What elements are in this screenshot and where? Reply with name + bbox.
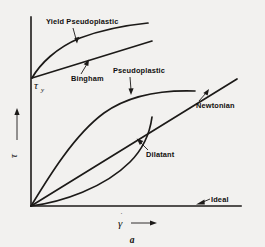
arrow-ideal (196, 200, 205, 205)
label-yield-pseudoplastic: Yield Pseudoplastic (46, 17, 118, 26)
yield-stress-subscript: y (40, 86, 45, 94)
rheology-flow-curve-figure: τ y τ γ · Yield Pseudoplastic Bingham Ps… (0, 0, 265, 247)
x-axis-label-dot: · (121, 210, 123, 218)
x-axis-arrow-head (150, 220, 157, 225)
label-dilatant: Dilatant (146, 150, 175, 159)
figure-caption: a (130, 235, 135, 245)
y-axis-label: τ (7, 153, 19, 158)
flow-curve-plot: τ y τ γ · Yield Pseudoplastic Bingham Ps… (0, 0, 265, 247)
curve-pseudoplastic (31, 91, 195, 206)
label-ideal: Ideal (211, 195, 229, 204)
curve-dilatant (31, 117, 152, 206)
arrow-pseudoplastic (129, 88, 134, 95)
label-newtonian: Newtonian (196, 101, 235, 110)
leader-yield-pseudoplastic (73, 28, 76, 39)
x-axis-label: γ (118, 217, 123, 229)
y-axis-arrow-head (14, 108, 19, 115)
leader-bingham (81, 64, 87, 74)
yield-stress-label: τ (34, 79, 39, 91)
label-bingham: Bingham (71, 74, 104, 83)
leader-pseudoplastic (130, 77, 131, 90)
label-pseudoplastic: Pseudoplastic (113, 66, 165, 75)
